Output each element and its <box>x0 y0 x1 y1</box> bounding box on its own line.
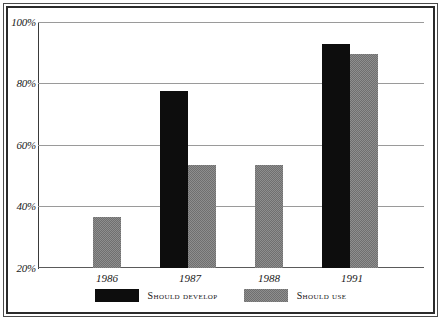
y-tick-label-20: 20% <box>2 262 36 274</box>
chart-legend: Should develop Should use <box>0 289 441 302</box>
bar-1987-should-develop <box>160 91 188 268</box>
y-tick-label-60: 60% <box>2 139 36 151</box>
x-tick-label-1988: 1988 <box>229 272 309 284</box>
bar-1991-should-use <box>350 54 378 268</box>
legend-label-should-use: Should use <box>297 290 347 301</box>
y-tick-label-80: 80% <box>2 77 36 89</box>
x-tick-label-1991: 1991 <box>312 272 392 284</box>
gridline-100 <box>38 22 424 23</box>
legend-swatch-should-use <box>244 289 288 302</box>
bar-1986-should-use <box>93 217 121 268</box>
x-tick-label-1987: 1987 <box>150 272 230 284</box>
bar-chart-figure: 100% 80% 60% 40% 20% 1986 1987 1988 1991… <box>0 0 441 320</box>
legend-label-should-develop: Should develop <box>148 290 218 301</box>
y-tick-label-40: 40% <box>2 200 36 212</box>
bar-1991-should-develop <box>322 44 350 268</box>
bar-1987-should-use <box>188 165 216 268</box>
plot-area <box>38 22 424 268</box>
legend-item-should-develop: Should develop <box>95 289 218 302</box>
bar-1988-should-use <box>255 165 283 268</box>
x-tick-label-1986: 1986 <box>67 272 147 284</box>
y-tick-label-100: 100% <box>2 16 36 28</box>
legend-swatch-should-develop <box>95 289 139 302</box>
legend-item-should-use: Should use <box>244 289 347 302</box>
